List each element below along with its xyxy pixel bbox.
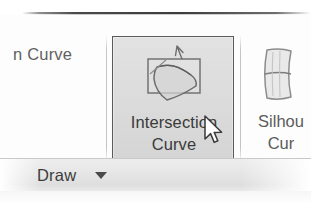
- silhouette-curve-button-label: Silhou Cur: [246, 110, 311, 154]
- panel-bar-fade-left: [0, 159, 42, 192]
- ribbon-body: n Curve Intersection C: [0, 15, 311, 158]
- button-label-line2: Cur: [246, 132, 311, 154]
- partial-button-left-label[interactable]: n Curve: [13, 45, 101, 64]
- button-label-line2: Curve: [115, 133, 233, 155]
- button-label-line1: Intersection: [131, 113, 218, 131]
- panel-bar-fade-right: [241, 159, 311, 192]
- chevron-down-icon[interactable]: [95, 172, 107, 179]
- bottom-fade: [0, 191, 311, 204]
- group-separator-left: [106, 35, 107, 163]
- silhouette-curve-button[interactable]: Silhou Cur: [246, 36, 311, 167]
- group-separator-right: [240, 35, 241, 163]
- panel-title: Draw: [37, 165, 76, 185]
- intersection-curve-icon: [113, 40, 235, 112]
- button-label-line1: Silhou: [258, 112, 304, 130]
- intersection-curve-button[interactable]: Intersection Curve: [112, 36, 234, 167]
- silhouette-curve-icon: [246, 40, 308, 110]
- ribbon-screenshot: n Curve Intersection C: [0, 0, 311, 204]
- intersection-curve-button-label: Intersection Curve: [115, 111, 233, 155]
- ribbon-panel-bar[interactable]: Draw: [0, 158, 311, 192]
